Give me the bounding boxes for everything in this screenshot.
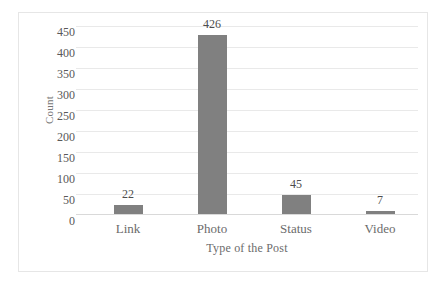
- gridline: [76, 68, 418, 69]
- gridline: [76, 173, 418, 174]
- bar-photo[interactable]: [198, 35, 227, 214]
- bar-value-video: 7: [350, 194, 410, 207]
- gridline: [76, 131, 418, 132]
- x-axis-title: Type of the Post: [76, 241, 418, 256]
- bar-value-status: 45: [266, 178, 326, 191]
- bar-video[interactable]: [366, 211, 395, 214]
- bar-link[interactable]: [114, 205, 143, 214]
- gridline: [76, 110, 418, 111]
- x-axis-tick-labels: Link Photo Status Video: [76, 221, 418, 239]
- plot-area: 22 426 45 7: [76, 25, 418, 215]
- bar-status[interactable]: [282, 195, 311, 214]
- chart-frame: Count 450 400 350 300 250 200 150 100 50…: [18, 12, 428, 272]
- y-axis-tick-label: 300: [29, 89, 75, 101]
- y-axis-tick-label: 150: [29, 152, 75, 164]
- y-axis-tick-label: 200: [29, 131, 75, 143]
- x-axis-tick-label-status: Status: [251, 221, 341, 237]
- bar-value-photo: 426: [182, 18, 242, 31]
- y-axis-tick-label: 400: [29, 47, 75, 59]
- y-axis-tick-label: 50: [29, 194, 75, 206]
- x-axis-tick-label-video: Video: [335, 221, 425, 237]
- bar-chart: Count 450 400 350 300 250 200 150 100 50…: [0, 0, 447, 293]
- x-axis-tick-label-link: Link: [83, 221, 173, 237]
- y-axis-tick-label: 350: [29, 68, 75, 80]
- y-axis-tick-label: 100: [29, 173, 75, 185]
- y-axis-tick-label: 0: [29, 215, 75, 227]
- bar-value-link: 22: [98, 188, 158, 201]
- x-axis-tick-label-photo: Photo: [167, 221, 257, 237]
- gridline: [76, 152, 418, 153]
- gridline: [76, 26, 418, 27]
- y-axis-tick-label: 450: [29, 26, 75, 38]
- gridline: [76, 89, 418, 90]
- y-axis-tick-labels: 450 400 350 300 250 200 150 100 50 0: [29, 19, 75, 215]
- gridline: [76, 47, 418, 48]
- y-axis-tick-label: 250: [29, 110, 75, 122]
- axis-baseline: [76, 214, 418, 215]
